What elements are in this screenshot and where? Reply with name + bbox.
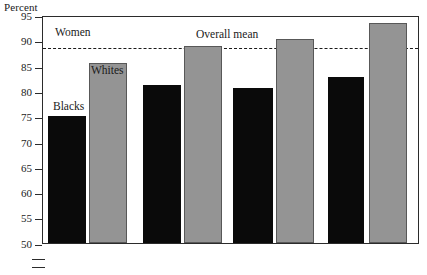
y-axis-tick-label: 80 <box>8 87 32 98</box>
axis-break-mark <box>32 259 45 260</box>
bar <box>369 23 407 243</box>
plot-area: Women Blacks Whites Overall mean <box>42 16 419 244</box>
y-axis-tick <box>35 118 42 119</box>
y-axis-tick <box>35 144 42 145</box>
bar-chart: Percent 95908580757065605550 Women Black… <box>0 0 427 275</box>
y-axis-tick <box>35 219 42 220</box>
y-axis-tick-label: 70 <box>8 138 32 149</box>
y-axis-tick-label: 60 <box>8 188 32 199</box>
reference-line <box>43 48 418 49</box>
y-axis-tick <box>35 194 42 195</box>
panel-label-women: Women <box>55 26 90 38</box>
bar <box>143 85 181 243</box>
series-label-blacks: Blacks <box>53 100 84 112</box>
y-axis-tick-label: 50 <box>8 239 32 250</box>
y-axis-tick-label: 90 <box>8 36 32 47</box>
y-axis-tick-label: 55 <box>8 213 32 224</box>
y-axis-tick-label: 85 <box>8 62 32 73</box>
y-axis-tick <box>35 93 42 94</box>
y-axis-tick <box>35 68 42 69</box>
bar <box>184 46 222 243</box>
y-axis-tick-label: 95 <box>8 11 32 22</box>
bar <box>233 88 273 243</box>
bar <box>276 39 314 243</box>
y-axis-tick <box>35 245 42 246</box>
axis-break-mark <box>32 267 45 268</box>
bar <box>89 63 127 243</box>
overall-mean-label: Overall mean <box>196 28 258 40</box>
y-axis-tick-label: 65 <box>8 163 32 174</box>
bar <box>48 116 86 243</box>
bar <box>328 77 364 243</box>
series-label-whites: Whites <box>91 64 124 76</box>
y-axis-tick <box>35 17 42 18</box>
y-axis-tick <box>35 42 42 43</box>
y-axis-tick-label: 75 <box>8 112 32 123</box>
y-axis-tick <box>35 169 42 170</box>
